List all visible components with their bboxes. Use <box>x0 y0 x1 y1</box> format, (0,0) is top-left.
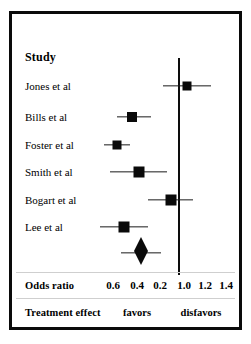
axis-tick-5: 1.4 <box>219 279 233 291</box>
plot-area: Study Jones et al Bills et al Foster et … <box>12 14 239 327</box>
forest-plot-figure: Study Jones et al Bills et al Foster et … <box>0 0 251 344</box>
ci-row-smith <box>12 163 239 181</box>
column-header-study: Study <box>25 50 56 65</box>
ci-row-lee <box>12 218 239 236</box>
footer-label-treatment-effect: Treatment effect <box>25 307 101 318</box>
footer-divider-top <box>16 272 235 273</box>
summary-row <box>12 241 239 265</box>
axis-tick-3: 1.0 <box>177 279 191 291</box>
plot-frame: Study Jones et al Bills et al Foster et … <box>9 11 242 330</box>
effect-marker-box <box>134 167 145 178</box>
effect-marker-box <box>119 222 130 233</box>
ci-row-foster <box>12 136 239 154</box>
axis-label-odds-ratio: Odds ratio <box>25 280 74 291</box>
axis-tick-4: 1.2 <box>198 279 212 291</box>
effect-marker-box <box>113 141 122 150</box>
effect-marker-box <box>183 82 192 91</box>
effect-marker-box <box>127 112 137 122</box>
ci-row-bogart <box>12 191 239 209</box>
footer-label-favors: favors <box>123 307 151 318</box>
effect-marker-box <box>166 195 177 206</box>
summary-diamond-icon <box>133 237 149 269</box>
footer-label-disfavors: disfavors <box>181 307 222 318</box>
ci-row-bills <box>12 108 239 126</box>
ci-row-jones <box>12 77 239 95</box>
axis-tick-2: 0.2 <box>153 279 167 291</box>
axis-tick-1: 0.4 <box>130 279 144 291</box>
axis-tick-0: 0.6 <box>106 279 120 291</box>
footer-divider-bottom <box>16 298 235 299</box>
